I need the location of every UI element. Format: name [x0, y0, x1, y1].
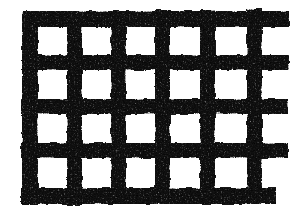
v-bar-5	[200, 10, 215, 203]
v-bar-1	[22, 11, 38, 205]
v-bar-2	[67, 11, 82, 205]
v-bar-4	[155, 10, 170, 204]
v-bar-6	[247, 9, 262, 203]
mesh-grid-artwork	[0, 0, 300, 212]
image-canvas	[0, 0, 300, 212]
h-bar-5	[21, 188, 276, 204]
v-bar-3	[111, 11, 126, 204]
